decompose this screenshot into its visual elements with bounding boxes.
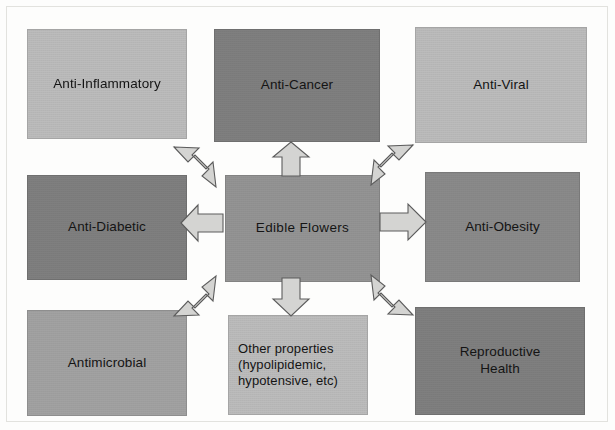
node-antimicrobial[interactable]: Antimicrobial [27, 310, 187, 416]
reproductive-line-2: Health [480, 361, 520, 376]
node-anti-cancer[interactable]: Anti-Cancer [214, 29, 380, 142]
node-label-anti-cancer: Anti-Cancer [257, 77, 337, 94]
reproductive-line-1: Reproductive [460, 344, 541, 359]
node-label-anti-inflammatory: Anti-Inflammatory [49, 76, 164, 93]
node-label-other-properties: Other properties (hypolipidemic, hypoten… [229, 341, 342, 390]
node-reproductive-health[interactable]: Reproductive Health [415, 307, 585, 415]
node-anti-inflammatory[interactable]: Anti-Inflammatory [27, 29, 187, 139]
node-anti-obesity[interactable]: Anti-Obesity [425, 172, 580, 282]
node-label-antimicrobial: Antimicrobial [64, 355, 151, 372]
node-label-anti-viral: Anti-Viral [469, 77, 533, 94]
arrow-down-icon [272, 277, 310, 317]
node-anti-diabetic[interactable]: Anti-Diabetic [27, 175, 187, 280]
other-properties-line-3: hypotensive, etc) [238, 373, 338, 388]
node-label-anti-diabetic: Anti-Diabetic [64, 219, 150, 236]
node-edible-flowers-center[interactable]: Edible Flowers [225, 175, 380, 282]
node-label-edible-flowers: Edible Flowers [252, 220, 353, 237]
arrow-up-icon [272, 141, 310, 177]
node-other-properties[interactable]: Other properties (hypolipidemic, hypoten… [228, 315, 368, 415]
other-properties-line-2: (hypolipidemic, [238, 357, 326, 372]
arrow-right-icon [379, 203, 427, 241]
diagram-canvas: Anti-Inflammatory Anti-Cancer Anti-Viral… [0, 0, 615, 430]
node-label-reproductive-health: Reproductive Health [456, 344, 545, 378]
other-properties-line-1: Other properties [238, 341, 334, 356]
node-label-anti-obesity: Anti-Obesity [461, 219, 544, 236]
node-anti-viral[interactable]: Anti-Viral [415, 27, 587, 143]
